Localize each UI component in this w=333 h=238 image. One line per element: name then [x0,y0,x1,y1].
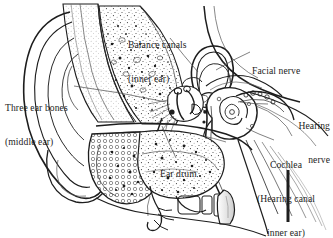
label-balance-canals-line1: Balance canals [128,39,187,50]
label-three-ear-bones: Three ear bones (middle ear) [5,80,68,170]
label-ear-drum-line1: Ear drum [160,168,197,179]
label-facial-nerve-line1: Facial nerve [252,65,300,76]
label-facial-nerve: Facial nerve [252,43,300,99]
label-balance-canals-line2: (inner ear) [128,73,187,84]
ear-anatomy-figure: Balance canals (inner ear) Facial nerve … [0,0,333,238]
label-cochlea-line2: (Hearing canal [240,193,332,204]
label-balance-canals: Balance canals (inner ear) [128,17,187,107]
label-cochlea-line1: Cochlea [240,159,332,170]
label-hearing-nerve-line1: Hearing [270,120,330,131]
label-ear-drum: Ear drum [160,146,197,202]
label-cochlea-line3: inner ear) [240,227,332,238]
label-three-ear-bones-line1: Three ear bones [5,102,68,113]
label-cochlea: Cochlea (Hearing canal inner ear) [240,137,332,238]
label-three-ear-bones-line2: (middle ear) [5,136,68,147]
